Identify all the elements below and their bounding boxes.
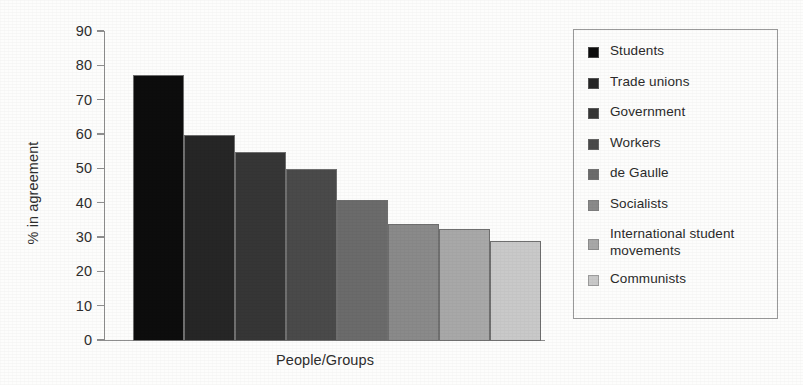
y-tick-label: 90	[52, 23, 92, 39]
bar	[439, 229, 490, 341]
legend-item: de Gaulle	[588, 165, 767, 183]
y-tick-mark	[97, 133, 104, 134]
legend-swatch-icon	[588, 78, 599, 89]
y-tick-label: 30	[52, 229, 92, 245]
legend-swatch-icon	[588, 275, 599, 286]
legend-item: Communists	[588, 271, 767, 289]
y-tick-label: 0	[52, 332, 92, 348]
legend-label: Students	[610, 43, 664, 60]
legend-swatch-icon	[588, 47, 599, 58]
chart-figure: % in agreement People/Groups 01020304050…	[0, 0, 803, 385]
x-axis-title: People/Groups	[105, 352, 545, 368]
legend: StudentsTrade unionsGovernmentWorkersde …	[573, 29, 778, 319]
legend-item: Socialists	[588, 196, 767, 214]
y-tick-mark	[97, 30, 104, 31]
legend-label: Communists	[610, 271, 686, 288]
legend-label: International student movements	[610, 226, 767, 259]
y-tick-mark	[97, 305, 104, 306]
y-tick-label: 20	[52, 263, 92, 279]
y-tick-mark	[97, 65, 104, 66]
legend-item: Students	[588, 43, 767, 61]
legend-item: Workers	[588, 135, 767, 153]
y-tick-label: 70	[52, 92, 92, 108]
y-tick-label: 50	[52, 160, 92, 176]
legend-label: de Gaulle	[610, 165, 669, 182]
y-axis-title: % in agreement	[25, 98, 41, 288]
y-tick-mark	[97, 339, 104, 340]
legend-item: Trade unions	[588, 74, 767, 92]
legend-label: Government	[610, 104, 685, 121]
legend-label: Workers	[610, 135, 661, 152]
legend-item: Government	[588, 104, 767, 122]
legend-swatch-icon	[588, 239, 599, 250]
y-axis-line	[104, 31, 105, 341]
legend-swatch-icon	[588, 139, 599, 150]
bar	[388, 224, 439, 341]
y-tick-mark	[97, 202, 104, 203]
bar	[337, 200, 388, 341]
bar-series	[133, 32, 541, 341]
bar	[184, 135, 235, 341]
legend-label: Socialists	[610, 196, 668, 213]
legend-item: International student movements	[588, 226, 767, 259]
y-tick-label: 40	[52, 195, 92, 211]
bar	[286, 169, 337, 341]
y-tick-mark	[97, 168, 104, 169]
legend-swatch-icon	[588, 200, 599, 211]
bar	[490, 241, 541, 341]
legend-swatch-icon	[588, 108, 599, 119]
y-tick-mark	[97, 99, 104, 100]
y-tick-mark	[97, 271, 104, 272]
legend-label: Trade unions	[610, 74, 690, 91]
bar	[235, 152, 286, 341]
bar	[133, 75, 184, 341]
y-tick-label: 60	[52, 126, 92, 142]
y-tick-label: 10	[52, 298, 92, 314]
legend-swatch-icon	[588, 169, 599, 180]
y-tick-mark	[97, 236, 104, 237]
plot-area: % in agreement People/Groups 01020304050…	[0, 0, 570, 385]
y-tick-label: 80	[52, 57, 92, 73]
